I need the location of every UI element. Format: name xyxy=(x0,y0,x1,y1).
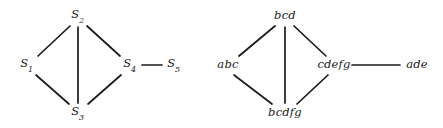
graph-figure: S2S1S4S5S3bcdabccdefgadebcdfg xyxy=(0,0,443,128)
node-label-ade: ade xyxy=(406,59,428,71)
node-label-s3: S3 xyxy=(71,106,84,120)
node-label-abc: abc xyxy=(217,59,238,71)
node-label-bcdfg: bcdfg xyxy=(268,107,302,119)
node-label-s5: S5 xyxy=(167,58,180,72)
edge-s3-s4 xyxy=(88,75,121,104)
edge-s1-s2 xyxy=(38,26,70,56)
edge-bcd-cdefg xyxy=(294,26,326,56)
edge-abc-bcdfg xyxy=(234,75,272,104)
node-label-bcd: bcd xyxy=(274,10,296,22)
node-label-s4: S4 xyxy=(123,58,136,72)
node-label-cdefg: cdefg xyxy=(317,59,350,71)
edge-s2-s4 xyxy=(87,26,120,56)
edge-s1-s3 xyxy=(36,75,69,104)
edge-bcdfg-cdefg xyxy=(297,75,328,104)
node-label-s2: S2 xyxy=(71,9,84,23)
node-label-s1: S1 xyxy=(20,58,33,72)
edge-abc-bcd xyxy=(239,26,275,56)
